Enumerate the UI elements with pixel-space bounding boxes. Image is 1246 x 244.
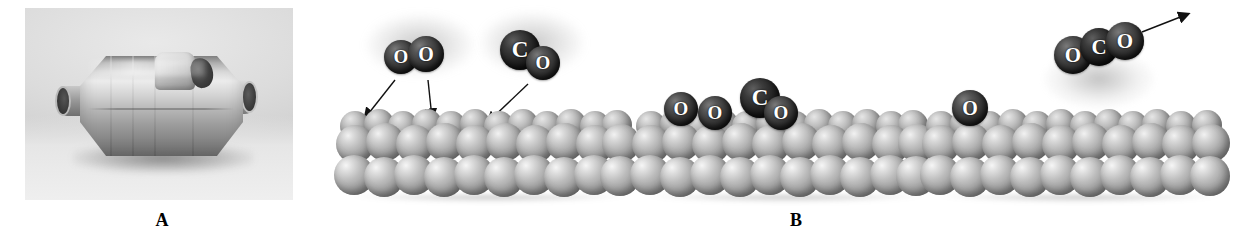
converter-seam	[88, 108, 234, 110]
adsorbed-co-atom-o: O	[764, 96, 798, 130]
panel-b: O O C O	[320, 0, 1246, 244]
arrow-co2-leaving	[1142, 14, 1188, 32]
atom-label-o: O	[708, 102, 723, 124]
stage-adsorption: O O C O	[340, 0, 640, 244]
atom-label-o: O	[962, 97, 978, 120]
slab-ground-shadow	[352, 195, 628, 203]
adsorbed-oxygen-atom-2: O	[698, 96, 732, 130]
slab-row-front	[926, 153, 1232, 201]
slab-ground-shadow	[938, 195, 1220, 203]
converter-specular-highlight	[85, 60, 205, 76]
panel-a: A	[0, 0, 320, 244]
figure-catalytic-converter: A O O C O	[0, 0, 1246, 244]
panel-a-label: A	[132, 210, 192, 231]
metal-atom	[1190, 156, 1230, 196]
atom-label-o: O	[774, 102, 789, 124]
catalyst-surface-slab	[340, 105, 640, 195]
panel-b-label: B	[766, 210, 826, 231]
adsorbed-oxygen-atom-1: O	[664, 92, 698, 126]
atom-label-o: O	[674, 98, 689, 120]
slab-row-front	[636, 153, 936, 201]
remaining-adsorbed-oxygen-atom: O	[952, 90, 988, 126]
slab-ground-shadow	[648, 195, 924, 203]
stage-surface-reaction: O O C O	[636, 0, 936, 244]
stage-desorption: O C O	[926, 0, 1232, 244]
catalytic-converter-photo	[25, 8, 293, 200]
slab-row-front	[340, 153, 640, 201]
